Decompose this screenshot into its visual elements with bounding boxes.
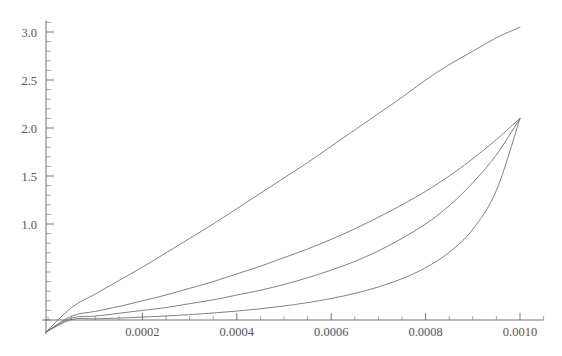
x-tick-label: 0.0002 — [125, 325, 159, 339]
x-tick-label: 0.0006 — [314, 325, 348, 339]
curve-4 — [46, 118, 520, 332]
y-tick-label: 2.0 — [21, 122, 37, 136]
x-axis-group — [42, 313, 544, 320]
x-tick-label: 0.0004 — [220, 325, 255, 339]
y-tick-label: 1.0 — [21, 218, 37, 232]
curve-2 — [46, 118, 520, 332]
plot-figure: 1.01.52.02.53.0 0.00020.00040.00060.0008… — [0, 0, 562, 356]
x-tick-labels-group: 0.00020.00040.00060.00080.0010 — [125, 325, 537, 339]
y-axis-group — [46, 20, 54, 334]
x-tick-label: 0.0008 — [408, 325, 442, 339]
y-tick-label: 3.0 — [21, 26, 37, 40]
curve-3 — [46, 118, 520, 332]
curves-group — [46, 27, 520, 332]
y-tick-label: 2.5 — [21, 74, 37, 88]
curve-1 — [46, 27, 520, 332]
y-tick-label: 1.5 — [21, 170, 37, 184]
x-tick-label: 0.0010 — [503, 325, 537, 339]
y-tick-labels-group: 1.01.52.02.53.0 — [21, 26, 37, 232]
plot-canvas: 1.01.52.02.53.0 0.00020.00040.00060.0008… — [0, 0, 562, 356]
